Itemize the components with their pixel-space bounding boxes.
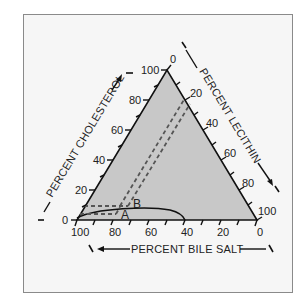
svg-text:40: 40: [93, 154, 105, 166]
bile-salt-axis-title: PERCENT BILE SALT: [89, 243, 273, 255]
svg-text:20: 20: [190, 87, 202, 99]
svg-text:0: 0: [62, 214, 68, 226]
ternary-diagram: B A 0 20 40 60 80 100 0 20: [0, 0, 308, 305]
point-b-label: B: [133, 197, 141, 211]
svg-text:80: 80: [109, 226, 121, 238]
bile-salt-ticks: [75, 220, 257, 226]
svg-text:60: 60: [145, 226, 157, 238]
svg-text:0: 0: [257, 226, 263, 238]
svg-text:100: 100: [141, 64, 159, 76]
svg-text:60: 60: [224, 147, 236, 159]
svg-text:40: 40: [181, 226, 193, 238]
svg-text:PERCENT BILE SALT: PERCENT BILE SALT: [131, 243, 243, 255]
svg-text:20: 20: [75, 184, 87, 196]
svg-text:100: 100: [71, 226, 89, 238]
bile-salt-tick-labels: 100 80 60 40 20 0: [71, 226, 263, 238]
svg-text:80: 80: [242, 177, 254, 189]
point-a-label: A: [121, 208, 129, 222]
svg-text:60: 60: [111, 124, 123, 136]
svg-text:20: 20: [217, 226, 229, 238]
svg-text:100: 100: [258, 205, 276, 217]
svg-text:40: 40: [206, 117, 218, 129]
svg-text:80: 80: [129, 94, 141, 106]
svg-text:0: 0: [170, 53, 176, 65]
